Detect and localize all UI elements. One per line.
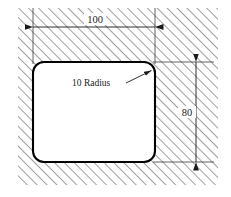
width-dimension-value: 100: [87, 14, 103, 25]
radius-callout-label: 10 Radius: [72, 78, 111, 88]
height-dimension-value: 80: [182, 107, 193, 118]
engineering-drawing-canvas: 100 80 10 Radius: [0, 0, 231, 197]
drawing-svg: 100 80 10 Radius: [0, 0, 231, 197]
